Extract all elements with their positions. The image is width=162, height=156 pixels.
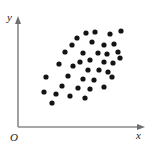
data-point [104,51,109,56]
origin-label: O [10,132,18,143]
data-point [87,86,92,91]
data-point [118,28,123,33]
data-point [77,59,82,64]
data-point [91,77,96,82]
data-point [67,93,72,98]
data-point [62,49,67,54]
data-point [101,59,106,64]
data-point [101,84,106,89]
data-point [70,63,75,68]
data-point [80,50,85,55]
data-point [105,69,110,74]
data-point [89,39,94,44]
data-point [43,74,48,79]
data-point [53,91,58,96]
data-point [65,73,70,78]
data-point [101,42,106,47]
data-point [96,67,101,72]
data-point [49,100,54,105]
data-point [95,50,100,55]
data-point [82,95,87,100]
data-point [115,49,120,54]
data-point [110,60,115,65]
data-point [107,31,112,36]
data-point [92,29,97,34]
data-point [83,30,88,35]
data-point [59,83,64,88]
data-point [69,42,74,47]
data-point [56,61,61,66]
scatter-plot-figure: y x O [0,0,162,156]
data-point [74,35,79,40]
data-point [117,55,122,60]
data-point [80,76,85,81]
data-point [87,57,92,62]
data-point [111,41,116,46]
data-point [41,89,46,94]
data-point [75,85,80,90]
x-axis-label: x [136,130,141,141]
y-axis-label: y [7,12,12,23]
data-point [85,67,90,72]
data-point [109,74,114,79]
